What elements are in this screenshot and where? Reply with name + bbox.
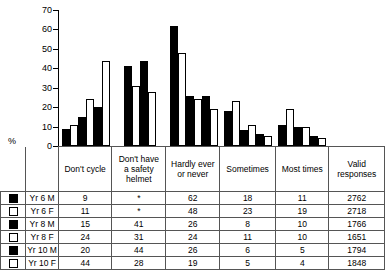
table-cell: 48 xyxy=(166,205,220,218)
table-cell: 44 xyxy=(112,244,166,257)
bars-area xyxy=(59,10,385,146)
table-cell: 24 xyxy=(166,231,220,244)
table-body: Yr 6 M9*6218112762Yr 6 F11*4823192718Yr … xyxy=(1,192,385,270)
column-header-line: Valid xyxy=(330,159,383,169)
table-cell: 9 xyxy=(58,192,111,205)
table-cell: 5 xyxy=(220,257,276,270)
table-cell: 62 xyxy=(166,192,220,205)
bar xyxy=(310,136,318,146)
y-tick-mark xyxy=(53,107,58,108)
y-axis-labels: 706050403020100 xyxy=(30,0,52,150)
column-header-line: a safety xyxy=(113,164,164,174)
row-label: Yr 10 F xyxy=(26,257,59,270)
table-cell: 4 xyxy=(276,257,329,270)
column-header-line: Sometimes xyxy=(221,164,274,174)
table-cell: * xyxy=(112,205,166,218)
data-table: Don't cycleDon't havea safetyhelmetHardl… xyxy=(0,146,385,270)
table-cell: 31 xyxy=(112,231,166,244)
table-cell: 26 xyxy=(166,218,220,231)
plot-area: 706050403020100 % xyxy=(0,0,385,150)
table-cell: 44 xyxy=(58,257,111,270)
legend-swatch-cell xyxy=(1,231,26,244)
table-cell: 18 xyxy=(220,192,276,205)
table-cell: 2762 xyxy=(329,192,385,205)
legend-swatch-cell xyxy=(1,205,26,218)
column-header-line: or never xyxy=(167,169,218,179)
bar xyxy=(264,136,272,146)
table-cell: 19 xyxy=(166,257,220,270)
bar xyxy=(148,92,156,146)
table-row: Yr 6 F11*4823192718 xyxy=(1,205,385,218)
table-cell: 1794 xyxy=(329,244,385,257)
table-cell: 1848 xyxy=(329,257,385,270)
table-cell: 28 xyxy=(112,257,166,270)
y-tick-label: 40 xyxy=(30,64,52,73)
bar-group xyxy=(167,10,221,146)
bar xyxy=(286,109,294,146)
bar xyxy=(102,61,110,146)
legend-swatch-cell xyxy=(1,218,26,231)
bar xyxy=(302,127,310,146)
bar xyxy=(232,101,240,146)
table-row: Yr 10 M204426651794 xyxy=(1,244,385,257)
bar xyxy=(178,53,186,146)
y-tick-label: 10 xyxy=(30,123,52,132)
bar xyxy=(248,125,256,146)
bar xyxy=(78,117,86,146)
column-header: Hardly everor never xyxy=(166,147,220,192)
bar xyxy=(318,138,326,146)
column-header-line: responses xyxy=(330,169,383,179)
table-cell: 26 xyxy=(166,244,220,257)
column-header-line: Don't cycle xyxy=(60,164,110,174)
bar xyxy=(240,130,248,146)
bar xyxy=(170,26,178,146)
table-cell: 19 xyxy=(276,205,329,218)
y-tick-label: 20 xyxy=(30,103,52,112)
row-label: Yr 8 F xyxy=(26,231,59,244)
table-cell: 15 xyxy=(58,218,111,231)
legend-swatch-cell xyxy=(1,257,26,270)
row-label: Yr 6 F xyxy=(26,205,59,218)
bar xyxy=(132,86,140,146)
table-cell: 11 xyxy=(58,205,111,218)
table-cell: 23 xyxy=(220,205,276,218)
column-header-line: Don't have xyxy=(113,154,164,164)
bar xyxy=(94,107,102,146)
rowname-header-cell xyxy=(26,147,59,192)
y-tick-label: 30 xyxy=(30,84,52,93)
table-cell: 8 xyxy=(220,218,276,231)
y-tick-label: 70 xyxy=(30,6,52,15)
column-header: Sometimes xyxy=(220,147,276,192)
legend-swatch-outline-icon xyxy=(9,233,18,242)
y-tick-mark xyxy=(53,127,58,128)
column-header: Don't havea safetyhelmet xyxy=(112,147,166,192)
table-cell: 1651 xyxy=(329,231,385,244)
y-tick-mark xyxy=(53,10,58,11)
y-axis-title: % xyxy=(8,137,16,146)
table-cell: 11 xyxy=(220,231,276,244)
table-cell: 11 xyxy=(276,192,329,205)
y-tick-label: 50 xyxy=(30,45,52,54)
bar-group xyxy=(221,10,275,146)
bar xyxy=(278,125,286,146)
legend-swatch-outline-icon xyxy=(9,259,18,268)
table-cell: 2718 xyxy=(329,205,385,218)
bar xyxy=(70,125,78,146)
column-header-line: Hardly ever xyxy=(167,159,218,169)
y-tick-label: 60 xyxy=(30,25,52,34)
table-header: Don't cycleDon't havea safetyhelmetHardl… xyxy=(1,147,385,192)
legend-swatch-cell xyxy=(1,192,26,205)
table-cell: 10 xyxy=(276,231,329,244)
y-tick-mark xyxy=(53,49,58,50)
bar-group xyxy=(275,10,329,146)
table-cell: 1766 xyxy=(329,218,385,231)
bar xyxy=(86,99,94,146)
table-row: Yr 10 F442819541848 xyxy=(1,257,385,270)
table-cell: 41 xyxy=(112,218,166,231)
legend-swatch-cell xyxy=(1,244,26,257)
row-label: Yr 8 M xyxy=(26,218,59,231)
column-header-line: Most times xyxy=(277,164,327,174)
table-cell: 6 xyxy=(220,244,276,257)
bar xyxy=(140,61,148,146)
